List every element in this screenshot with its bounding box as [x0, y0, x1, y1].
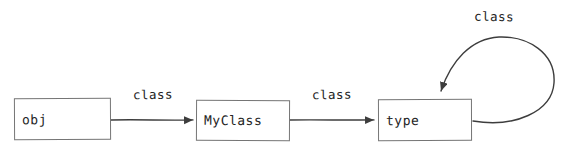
- edge-type-self-loop-label: class: [474, 9, 514, 24]
- node-obj: obj: [14, 98, 111, 141]
- node-myclass-label: MyClass: [204, 113, 262, 128]
- node-type: type: [378, 99, 472, 141]
- diagram-canvas: obj MyClass type class class class: [0, 0, 564, 152]
- node-type-label: type: [386, 113, 419, 128]
- node-obj-label: obj: [22, 112, 47, 127]
- edge-obj-to-myclass-label: class: [133, 87, 173, 103]
- node-myclass: MyClass: [196, 100, 290, 141]
- edge-myclass-to-type-label: class: [312, 87, 352, 103]
